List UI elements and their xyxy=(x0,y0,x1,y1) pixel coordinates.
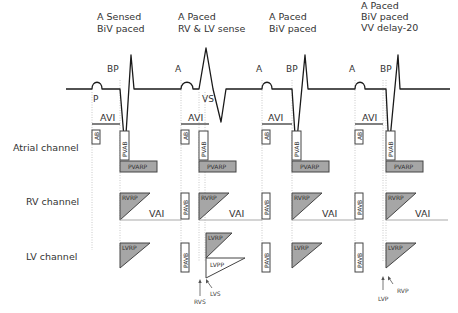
bp-label-4: BP xyxy=(380,64,392,74)
svg-text:PVAB: PVAB xyxy=(387,141,394,157)
beat-title-4: A Paced BiV paced VV delay-20 xyxy=(361,0,418,33)
svg-text:PVARP: PVARP xyxy=(394,163,414,170)
bp-label-3: BP xyxy=(286,64,298,74)
svg-text:PAVB: PAVB xyxy=(182,253,189,268)
svg-text:VV delay-20: VV delay-20 xyxy=(361,22,418,33)
svg-text:AB: AB xyxy=(356,132,363,140)
a-label-4: A xyxy=(349,64,356,74)
ab-blocks: AB AB AB AB xyxy=(92,130,363,144)
svg-text:PAVB: PAVB xyxy=(356,253,363,268)
svg-text:AVI: AVI xyxy=(268,112,283,123)
svg-text:AVI: AVI xyxy=(100,112,115,123)
svg-text:LVPP: LVPP xyxy=(210,261,224,268)
svg-text:BiV paced: BiV paced xyxy=(97,23,145,34)
lvs-annotation: LVS xyxy=(206,279,221,297)
svg-text:RVP: RVP xyxy=(397,287,409,294)
svg-text:A Paced: A Paced xyxy=(178,11,216,22)
pacemaker-timing-diagram: A Sensed BiV paced A Paced RV & LV sense… xyxy=(0,0,458,313)
svg-text:RVRP: RVRP xyxy=(294,194,310,201)
p-wave-label: P xyxy=(93,94,99,104)
rvs-annotation: RVS xyxy=(194,279,206,305)
bp-label-1: BP xyxy=(107,64,119,74)
lvp-annotation: LVP xyxy=(378,276,389,302)
svg-text:PVAB: PVAB xyxy=(293,141,300,157)
beat-title-3: A Paced BiV paced xyxy=(269,11,317,34)
svg-text:AVI: AVI xyxy=(188,112,203,123)
svg-text:PAVB: PAVB xyxy=(356,200,363,215)
svg-text:RVRP: RVRP xyxy=(388,194,404,201)
pvarp-blocks: PVARP PVARP PVARP PVARP xyxy=(120,161,423,172)
svg-text:RV & LV sense: RV & LV sense xyxy=(178,23,246,34)
svg-text:VAI: VAI xyxy=(415,208,430,219)
svg-text:PAVB: PAVB xyxy=(182,200,189,215)
svg-text:BiV paced: BiV paced xyxy=(269,23,317,34)
vs-label: VS xyxy=(202,94,214,104)
svg-text:VAI: VAI xyxy=(229,208,244,219)
svg-text:PVARP: PVARP xyxy=(300,163,320,170)
svg-text:LVRP: LVRP xyxy=(294,244,309,251)
svg-text:VAI: VAI xyxy=(322,208,337,219)
rv-channel-label: RV channel xyxy=(26,196,79,207)
svg-text:RVRP: RVRP xyxy=(201,194,217,201)
svg-text:A Sensed: A Sensed xyxy=(97,11,141,22)
beat-title-1: A Sensed BiV paced xyxy=(97,11,145,34)
svg-text:PVAB: PVAB xyxy=(121,141,128,157)
vai-intervals: VAI VAI VAI VAI xyxy=(120,208,448,220)
svg-text:LVRP: LVRP xyxy=(122,244,137,251)
svg-text:AB: AB xyxy=(93,132,100,140)
beat-title-2: A Paced RV & LV sense xyxy=(178,11,246,34)
svg-text:RVRP: RVRP xyxy=(122,194,138,201)
svg-text:A Paced: A Paced xyxy=(269,11,307,22)
a-label-2: A xyxy=(175,64,182,74)
svg-text:PVARP: PVARP xyxy=(128,163,148,170)
svg-text:PAVB: PAVB xyxy=(263,253,270,268)
svg-text:VAI: VAI xyxy=(149,208,164,219)
avi-intervals: AVI AVI AVI AVI xyxy=(92,112,383,124)
rvp-annotation: RVP xyxy=(388,276,409,294)
svg-text:LVRP: LVRP xyxy=(388,244,403,251)
svg-text:A Paced: A Paced xyxy=(361,0,399,11)
svg-text:AB: AB xyxy=(263,132,270,140)
a-label-3: A xyxy=(256,64,263,74)
atrial-channel-label: Atrial channel xyxy=(13,142,79,153)
svg-text:LVS: LVS xyxy=(210,290,221,297)
svg-text:PAVB: PAVB xyxy=(263,200,270,215)
svg-text:LVP: LVP xyxy=(378,295,389,302)
lv-channel-label: LV channel xyxy=(26,251,77,262)
svg-text:PVAB: PVAB xyxy=(200,141,207,157)
svg-text:RVS: RVS xyxy=(194,298,206,305)
svg-text:BiV paced: BiV paced xyxy=(361,11,409,22)
svg-text:AB: AB xyxy=(182,132,189,140)
svg-text:PVARP: PVARP xyxy=(207,163,227,170)
pvab-blocks: PVAB PVAB PVAB PVAB xyxy=(120,131,395,160)
lvpp-triangle: LVPP xyxy=(206,258,245,278)
svg-text:AVI: AVI xyxy=(362,112,377,123)
svg-text:LVRP: LVRP xyxy=(208,234,223,241)
